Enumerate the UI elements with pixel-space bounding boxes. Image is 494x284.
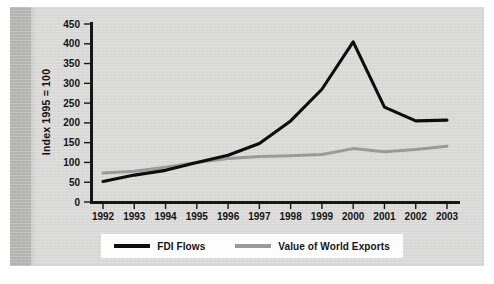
x-tick-label: 1992 [92,211,115,222]
chart-legend: FDI Flows Value of World Exports [101,234,403,258]
series-line-value-of-world-exports [103,146,447,173]
legend-swatch-value-of-world-exports [235,244,271,248]
x-tick-label: 1999 [311,211,334,222]
x-tick-label: 1995 [186,211,209,222]
x-tick-label: 1996 [217,211,240,222]
x-tick-label: 2001 [373,211,396,222]
x-tick-label: 1998 [280,211,303,222]
y-tick-label: 350 [63,58,80,69]
legend-label-fdi-flows: FDI Flows [157,241,205,252]
x-tick-label: 1993 [123,211,146,222]
y-axis-ticks: 050100150200250300350400450 [63,19,91,208]
series-line-fdi-flows [103,42,447,182]
legend-item-fdi-flows: FDI Flows [114,241,205,252]
legend-label-value-of-world-exports: Value of World Exports [278,241,389,252]
y-tick-label: 200 [63,117,80,128]
x-tick-label: 2003 [436,211,459,222]
x-tick-label: 2000 [342,211,365,222]
x-tick-label: 2002 [405,211,428,222]
x-tick-label: 1997 [248,211,271,222]
legend-item-value-of-world-exports: Value of World Exports [235,241,389,252]
y-tick-label: 0 [74,197,80,208]
y-tick-label: 450 [63,19,80,30]
y-tick-label: 50 [69,177,81,188]
y-tick-label: 100 [63,157,80,168]
chart-figure: Index 1995 = 100 05010015020025030035040… [0,0,494,284]
y-tick-label: 300 [63,78,80,89]
y-tick-label: 150 [63,137,80,148]
y-tick-label: 400 [63,38,80,49]
x-tick-label: 1994 [154,211,177,222]
y-axis-label: Index 1995 = 100 [40,69,52,155]
y-tick-label: 250 [63,98,80,109]
x-axis-ticks: 1992199319941995199619971998199920002001… [92,203,459,222]
legend-swatch-fdi-flows [114,244,150,248]
